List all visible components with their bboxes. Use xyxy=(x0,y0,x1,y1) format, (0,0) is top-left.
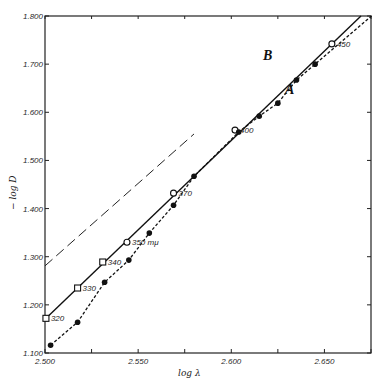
open-circle-marker xyxy=(171,190,177,196)
wavelength-label: 400 xyxy=(240,126,254,135)
y-tick-label: 1.400 xyxy=(23,205,44,214)
chart: 1.1001.2001.3001.4001.5001.6001.7001.800… xyxy=(0,0,383,384)
filled-circle-marker xyxy=(102,279,108,285)
y-tick-label: 1.600 xyxy=(23,108,44,117)
y-tick-label: 1.300 xyxy=(23,253,44,262)
filled-circle-marker xyxy=(191,174,197,180)
series-b-line xyxy=(51,16,372,345)
filled-circle-marker xyxy=(294,77,300,83)
asymptote-line xyxy=(45,134,194,266)
series-label-a: A xyxy=(284,82,294,97)
series-label-b: B xyxy=(262,48,272,63)
x-tick-label: 2.650 xyxy=(313,357,335,366)
x-axis-title: log λ xyxy=(178,368,201,378)
x-tick-label: 2.600 xyxy=(220,357,242,366)
series-lines xyxy=(45,16,372,345)
axis-ticks xyxy=(45,16,371,353)
filled-circle-marker xyxy=(48,342,54,348)
open-square-marker xyxy=(75,285,81,291)
filled-circle-marker xyxy=(171,202,177,208)
plot-frame xyxy=(45,16,371,353)
filled-circle-marker xyxy=(312,61,318,67)
open-circle-marker xyxy=(329,41,335,47)
wavelength-label: 350 mμ xyxy=(132,238,159,247)
wavelength-label: 370 xyxy=(179,189,193,198)
open-square-marker xyxy=(43,315,49,321)
filled-circle-marker xyxy=(275,100,281,106)
wavelength-label: 330 xyxy=(83,284,97,293)
x-tick-labels: 2.5002.5502.6002.650 xyxy=(34,357,335,366)
filled-circle-marker xyxy=(147,230,153,236)
y-tick-labels: 1.1001.2001.3001.4001.5001.6001.7001.800 xyxy=(23,12,44,358)
x-tick-label: 2.550 xyxy=(127,357,149,366)
filled-circle-marker xyxy=(256,113,262,119)
filled-circle-marker xyxy=(126,257,132,263)
wavelength-label: 450 xyxy=(337,40,351,49)
open-square-marker xyxy=(100,259,106,265)
x-tick-label: 2.500 xyxy=(34,357,56,366)
wavelength-label: 340 xyxy=(108,258,122,267)
wavelength-label: 320 xyxy=(51,314,65,323)
filled-circle-marker xyxy=(75,319,81,325)
point-labels: 320330340350 mμ370400450 xyxy=(51,40,351,323)
y-tick-label: 1.800 xyxy=(23,12,44,21)
y-tick-label: 1.500 xyxy=(23,156,44,165)
y-tick-label: 1.200 xyxy=(23,301,44,310)
y-tick-label: 1.700 xyxy=(23,60,44,69)
open-circle-marker xyxy=(124,239,130,245)
y-axis-title: − log D xyxy=(8,175,18,210)
